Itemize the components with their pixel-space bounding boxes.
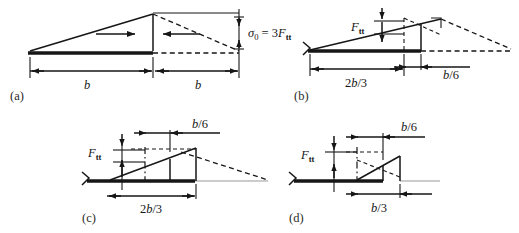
- panel-d-dim-offset-label: b/6: [401, 120, 417, 134]
- panel-c-dim-base-label: 2b/3: [140, 202, 162, 216]
- panel-c-label: (c): [82, 211, 96, 225]
- panel-d-break-symbol: [289, 172, 296, 185]
- panel-c-force-label: Ftt: [87, 146, 102, 162]
- panel-a-dim-b-left-label: b: [84, 78, 90, 92]
- figure-container: σ0 = 3Ftt b b (a): [0, 0, 519, 233]
- panel-d-force-label: Ftt: [300, 148, 315, 164]
- panel-d-dim-base-label: b/3: [371, 201, 387, 215]
- panel-b-dashed-triangle: [404, 18, 511, 51]
- panel-b: Ftt 2b/3 b/6 (b): [294, 8, 511, 103]
- panel-c: Ftt b/6 2b/3 (c): [82, 117, 268, 225]
- panel-a-solid-triangle: [30, 14, 153, 51]
- figure-svg: σ0 = 3Ftt b b (a): [0, 0, 519, 233]
- panel-b-dim-offset-label: b/6: [443, 68, 459, 82]
- panel-b-dim-base-label: 2b/3: [345, 76, 367, 90]
- panel-b-label: (b): [294, 89, 309, 103]
- panel-c-break-symbol: [82, 172, 89, 185]
- panel-a: σ0 = 3Ftt b b (a): [10, 9, 292, 103]
- panel-d-dim-base: [346, 184, 432, 198]
- panel-b-force-label: Ftt: [350, 20, 365, 36]
- panel-a-dim-b-right-label: b: [195, 78, 201, 92]
- panel-c-dim-offset-label: b/6: [192, 117, 208, 131]
- panel-b-solid-triangle: [310, 19, 441, 51]
- panel-a-stress-label: σ0 = 3Ftt: [248, 26, 292, 42]
- panel-d-dim-offset: [346, 133, 425, 160]
- panel-a-label: (a): [10, 89, 24, 103]
- panel-d-label: (d): [289, 211, 304, 225]
- panel-b-force-arrow: [374, 8, 404, 42]
- panel-d: Ftt b/6 b/3 (d): [289, 120, 440, 225]
- panel-a-stress-dimension: [234, 9, 244, 57]
- panel-b-break-symbol: [303, 42, 310, 55]
- panel-d-force-arrow: [325, 136, 357, 192]
